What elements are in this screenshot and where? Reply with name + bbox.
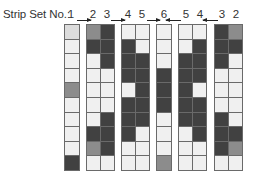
strip-cell [65,83,79,97]
strip-cell [179,83,192,97]
strip-cell [65,156,79,170]
strip-cell [157,69,171,83]
strip-cell [193,142,206,156]
strip-2 [229,25,242,170]
strip-cell [193,156,206,170]
strip-number-2-mirror: 2 [231,8,241,20]
strip-cell [193,25,206,39]
strip-cell [157,98,171,112]
strip-cell [193,83,206,97]
strip-cell [157,142,171,156]
strip-cell [65,40,79,54]
strip-cell [215,69,228,83]
strip-cell [101,25,114,39]
strip-cell [157,83,171,97]
strip-number-1: 1 [66,8,76,20]
strip-cell [122,40,135,54]
strip-cell [179,40,192,54]
strip-cell [157,54,171,68]
strip-cell [122,156,135,170]
strip-cell [179,25,192,39]
strip-cell [193,127,206,141]
strip-2 [87,25,100,170]
strip-cell [101,54,114,68]
strip-cell [229,113,242,127]
strip-cell [179,98,192,112]
strip-cell [229,54,242,68]
strip-cell [101,83,114,97]
strip-cell [122,69,135,83]
strip-cell [215,83,228,97]
arrow-left-icon [203,20,218,21]
strip-cell [193,40,206,54]
strip-cell [136,40,149,54]
strip-set-group [64,24,80,171]
strip-3 [101,25,114,170]
strip-cell [87,113,100,127]
strip-cell [157,127,171,141]
strip-cell [65,127,79,141]
strip-cell [157,25,171,39]
strip-cell [229,142,242,156]
strip-set-group [86,24,115,171]
strip-set-label: Strip Set No.: [3,8,70,20]
strip-cell [215,142,228,156]
strip-cell [65,69,79,83]
strip-cell [229,127,242,141]
strip-cell [179,156,192,170]
strip-cell [101,69,114,83]
strip-5 [136,25,149,170]
strip-6 [157,25,171,170]
strip-cell [136,54,149,68]
strip-cell [229,83,242,97]
strip-cell [157,113,171,127]
strip-cell [65,54,79,68]
strip-cell [122,83,135,97]
strip-1 [65,25,79,170]
strip-cell [229,25,242,39]
strip-number-5-mirror: 5 [181,8,191,20]
strip-cell [229,69,242,83]
strip-cell [229,98,242,112]
strip-cell [157,40,171,54]
strip-cell [65,113,79,127]
strip-cell [179,142,192,156]
strip-cell [136,98,149,112]
strip-cell [193,98,206,112]
strip-cell [157,156,171,170]
strip-cell [136,25,149,39]
strip-cell [193,69,206,83]
strip-cell [136,113,149,127]
strip-cell [65,98,79,112]
strip-cell [87,98,100,112]
strip-cell [122,54,135,68]
strip-set-group [156,24,172,171]
strip-cell [122,142,135,156]
strip-cell [101,142,114,156]
strip-cell [215,156,228,170]
strip-set-group [178,24,207,171]
strip-cell [215,113,228,127]
strip-cell [136,83,149,97]
strip-cell [179,113,192,127]
strip-cell [193,54,206,68]
strip-number-3: 3 [102,8,112,20]
strip-cell [87,142,100,156]
strip-cell [87,25,100,39]
strip-cell [122,113,135,127]
strip-cell [136,142,149,156]
strip-cell [87,69,100,83]
strip-cell [87,40,100,54]
strip-4 [193,25,206,170]
strip-cell [179,69,192,83]
strip-3 [215,25,228,170]
arrow-right-icon [111,20,125,21]
strip-cell [65,142,79,156]
strip-cell [101,40,114,54]
strip-cell [215,25,228,39]
strip-cell [87,54,100,68]
strip-cell [179,54,192,68]
strip-5 [179,25,192,170]
strip-cell [101,156,114,170]
strip-cell [215,127,228,141]
